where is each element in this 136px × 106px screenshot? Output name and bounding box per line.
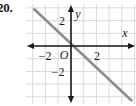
coordinate-plane: x y O −2 2 2 −2 — [26, 4, 136, 104]
x-tick-label-positive-two: 2 — [94, 49, 100, 63]
math-figure: 20. — [0, 0, 136, 106]
x-axis-label: x — [121, 26, 128, 40]
x-tick-label-negative-two: −2 — [39, 49, 52, 63]
problem-number-label: 20. — [0, 1, 12, 15]
coordinate-plane-svg: x y O −2 2 2 −2 — [26, 4, 136, 104]
y-tick-label-negative-two: −2 — [52, 65, 65, 79]
y-axis-label: y — [74, 7, 81, 21]
y-axis — [68, 5, 74, 103]
y-tick-label-positive-two: 2 — [59, 14, 65, 28]
origin-label: O — [60, 48, 69, 62]
